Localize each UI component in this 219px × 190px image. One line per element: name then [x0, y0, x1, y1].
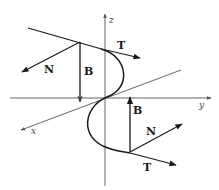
- space-curve: [88, 49, 130, 153]
- y-axis-label: y: [199, 101, 204, 110]
- diagram-canvas: [0, 0, 219, 190]
- lower-T-arrow: [130, 153, 176, 165]
- upper-tangent-line: [28, 28, 105, 50]
- lower-T-label: T: [143, 162, 151, 173]
- z-axis-label: z: [109, 16, 114, 25]
- frenet-frame-diagram: z y x T N B B N T: [0, 0, 219, 190]
- upper-B-label: B: [84, 66, 93, 77]
- x-axis-label: x: [31, 127, 36, 136]
- upper-T-label: T: [117, 40, 125, 51]
- lower-N-label: N: [146, 126, 156, 137]
- upper-N-label: N: [44, 64, 54, 75]
- lower-B-label: B: [133, 105, 142, 116]
